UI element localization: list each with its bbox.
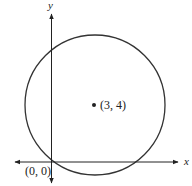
- x-axis-label: x: [184, 156, 189, 167]
- center-point: [92, 103, 96, 107]
- diagram-canvas: y x (3, 4) (0, 0): [0, 0, 192, 186]
- y-axis-label: y: [48, 0, 53, 11]
- origin-label: (0, 0): [25, 165, 51, 177]
- center-label: (3, 4): [100, 99, 126, 111]
- diagram-graphic: [0, 0, 192, 186]
